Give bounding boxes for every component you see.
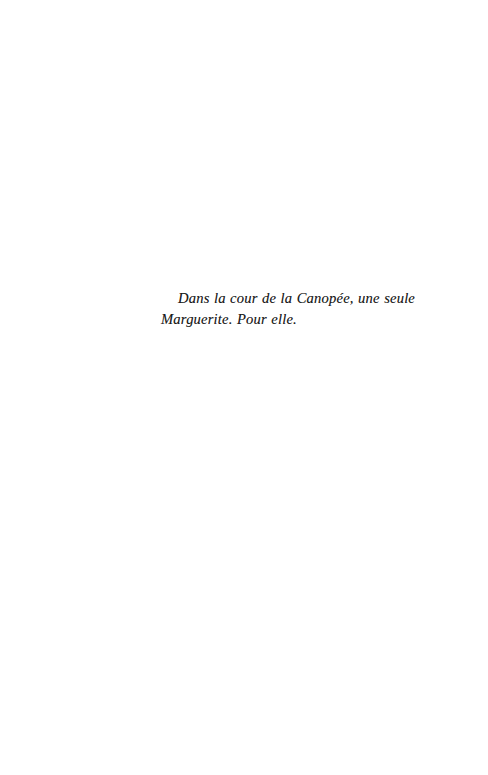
blank-lower-margin (0, 334, 488, 775)
book-page: Dans la cour de la Canopée, une seule Ma… (0, 0, 488, 775)
epigraph-text: Dans la cour de la Canopée, une seule Ma… (161, 288, 433, 330)
epigraph-block: Dans la cour de la Canopée, une seule Ma… (161, 288, 433, 330)
blank-upper-margin (0, 0, 488, 288)
